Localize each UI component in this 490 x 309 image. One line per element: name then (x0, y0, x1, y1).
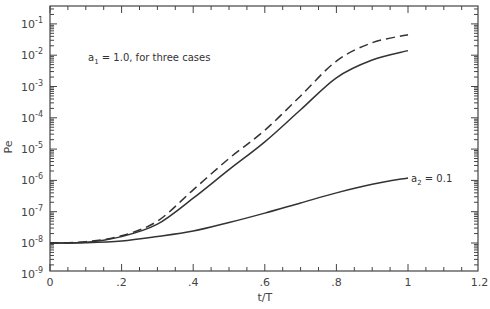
x-axis-label: t/T (257, 291, 272, 304)
y-tick-label: 10-1 (21, 16, 43, 31)
line-chart: 0.2.4.6.811.2t/T10-910-810-710-610-510-4… (0, 0, 490, 309)
y-tick-label: 10-6 (21, 172, 43, 187)
series-line-1 (50, 35, 408, 243)
x-axis: 0.2.4.6.811.2 (47, 6, 489, 289)
series-group (50, 35, 408, 243)
x-tick-label: 0 (47, 276, 54, 289)
series-line-3 (50, 178, 408, 243)
y-tick-label: 10-2 (21, 47, 43, 62)
y-tick-label: 10-8 (21, 235, 43, 250)
x-tick-label: .6 (260, 276, 271, 289)
x-tick-label: .2 (116, 276, 127, 289)
y-tick-label: 10-4 (21, 110, 43, 125)
annotation-a1: a1 = 1.0, for three cases (88, 52, 210, 66)
x-tick-label: .8 (331, 276, 342, 289)
x-tick-label: 1 (405, 276, 412, 289)
y-tick-label: 10-9 (21, 266, 43, 281)
y-axis: 10-910-810-710-610-510-410-310-210-1 (21, 9, 478, 281)
y-axis-label: Pe (2, 140, 15, 153)
y-tick-label: 10-3 (21, 79, 43, 94)
x-tick-label: 1.2 (471, 276, 489, 289)
y-tick-label: 10-5 (21, 141, 43, 156)
series-line-2 (50, 51, 408, 243)
annotation-a2: a2 = 0.1 (411, 173, 452, 187)
plot-frame (50, 6, 478, 271)
x-tick-label: .4 (188, 276, 199, 289)
y-tick-label: 10-7 (21, 204, 43, 219)
